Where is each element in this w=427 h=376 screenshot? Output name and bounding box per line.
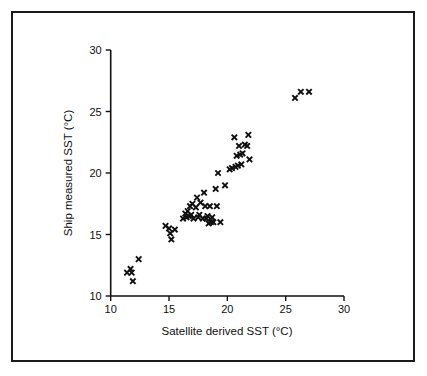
y-axis-title: Ship measured SST (°C) bbox=[62, 110, 74, 237]
data-point-marker bbox=[247, 157, 252, 162]
data-point-marker bbox=[194, 195, 199, 200]
data-point-marker bbox=[222, 183, 227, 188]
x-axis-ticks: 1015202530 bbox=[105, 296, 351, 315]
data-point-marker bbox=[169, 237, 174, 242]
data-point-marker bbox=[213, 186, 218, 191]
y-axis-ticks: 1015202530 bbox=[89, 44, 110, 302]
data-point-marker bbox=[214, 204, 219, 209]
data-point-marker bbox=[246, 132, 251, 137]
data-point-marker bbox=[207, 204, 212, 209]
data-points-layer bbox=[124, 89, 311, 284]
data-point-marker bbox=[292, 95, 297, 100]
data-point-marker bbox=[306, 89, 311, 94]
data-point-marker bbox=[130, 279, 135, 284]
x-tick-label: 20 bbox=[221, 303, 233, 315]
scatter-plot: 1015202530 1015202530 Satellite derived … bbox=[0, 0, 427, 376]
x-tick-label: 30 bbox=[338, 303, 350, 315]
figure-container: 1015202530 1015202530 Satellite derived … bbox=[0, 0, 427, 376]
y-tick-label: 15 bbox=[89, 229, 101, 241]
x-axis-title: Satellite derived SST (°C) bbox=[162, 325, 293, 337]
data-point-marker bbox=[215, 170, 220, 175]
x-tick-label: 10 bbox=[105, 303, 117, 315]
data-point-marker bbox=[232, 135, 237, 140]
data-point-marker bbox=[193, 205, 198, 210]
y-tick-label: 30 bbox=[89, 44, 101, 56]
data-point-marker bbox=[209, 215, 214, 220]
data-point-marker bbox=[236, 143, 241, 148]
y-tick-label: 20 bbox=[89, 167, 101, 179]
data-point-marker bbox=[136, 256, 141, 261]
data-point-marker bbox=[298, 89, 303, 94]
y-tick-label: 25 bbox=[89, 106, 101, 118]
x-tick-label: 15 bbox=[163, 303, 175, 315]
x-tick-label: 25 bbox=[280, 303, 292, 315]
data-point-marker bbox=[218, 220, 223, 225]
data-point-marker bbox=[172, 227, 177, 232]
data-point-marker bbox=[201, 190, 206, 195]
y-tick-label: 10 bbox=[89, 290, 101, 302]
